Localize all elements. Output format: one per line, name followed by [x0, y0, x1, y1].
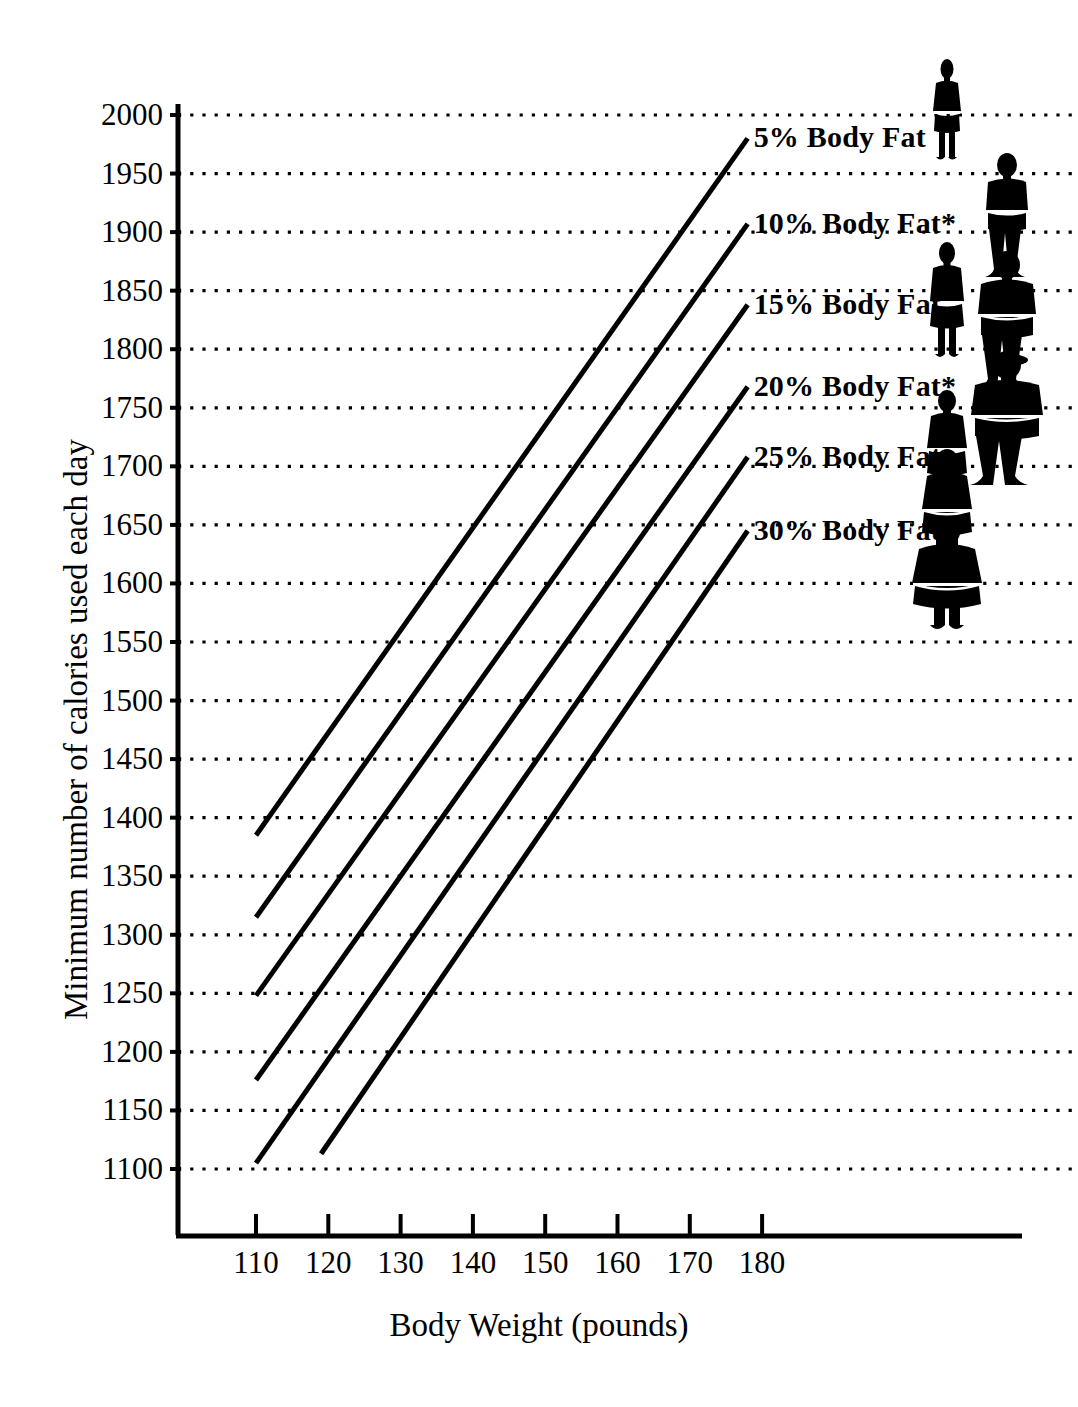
y-tick-label: 1500: [101, 685, 163, 716]
y-tick-label: 1250: [101, 977, 163, 1008]
y-tick-label: 2000: [101, 99, 163, 130]
series-label-2: 10% Body Fat*: [754, 208, 957, 238]
body-fat-calorie-chart: 1100115012001250130013501400145015001550…: [0, 0, 1078, 1407]
y-tick-label: 1600: [101, 567, 163, 598]
y-axis-title: Minimum number of calories used each day: [58, 439, 95, 1020]
y-tick-label: 1550: [101, 626, 163, 657]
series-lines-group: [256, 138, 748, 1163]
y-tick-label: 1900: [101, 216, 163, 247]
y-tick-label: 1150: [102, 1094, 163, 1125]
x-axis-title: Body Weight (pounds): [0, 1307, 1078, 1344]
series-label-3: 15% Body Fat: [754, 289, 941, 319]
y-tick-label: 1100: [102, 1153, 163, 1184]
series-label-1: 5% Body Fat: [754, 122, 926, 152]
y-tick-label: 1400: [101, 802, 163, 833]
x-tick-label: 180: [712, 1247, 812, 1278]
female-figure-5pct: [933, 59, 961, 160]
y-tick-label: 1650: [101, 509, 163, 540]
series-line-6: [321, 531, 748, 1154]
y-tick-label: 1950: [101, 158, 163, 189]
y-tick-label: 1200: [101, 1036, 163, 1067]
y-tick-label: 1850: [101, 275, 163, 306]
x-tick-marks: [256, 1214, 762, 1236]
y-tick-label: 1750: [101, 392, 163, 423]
y-tick-label: 1450: [101, 743, 163, 774]
y-tick-label: 1800: [101, 333, 163, 364]
y-tick-label: 1700: [101, 450, 163, 481]
series-label-5: 25% Body Fat: [754, 441, 941, 471]
series-label-6: 30% Body Fat: [754, 515, 941, 545]
series-label-4: 20% Body Fat*: [754, 371, 957, 401]
y-tick-label: 1350: [101, 860, 163, 891]
y-tick-label: 1300: [101, 919, 163, 950]
